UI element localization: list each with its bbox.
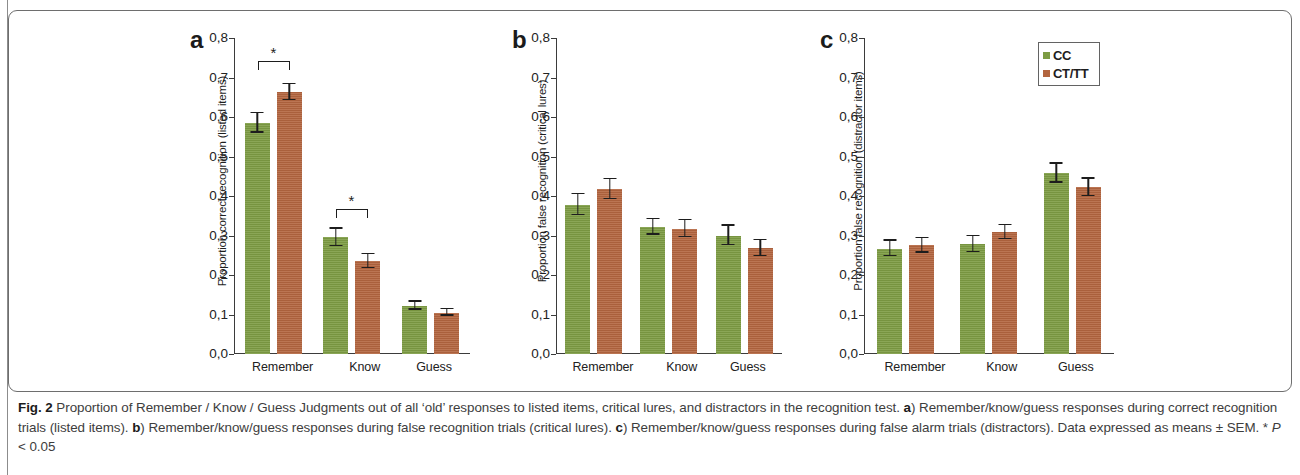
y-tick-mark: [229, 236, 234, 237]
y-tick-label: 0,2: [822, 268, 858, 282]
error-bar-cap: [1082, 195, 1095, 196]
y-tick-mark: [551, 354, 556, 355]
error-bar-cap: [722, 224, 735, 225]
x-category-label: Know: [349, 360, 380, 374]
bar-group: [640, 38, 697, 354]
x-category-label: Guess: [1058, 360, 1094, 374]
error-bar-cap: [722, 244, 735, 245]
bar-group: [565, 38, 622, 354]
y-tick-mark: [859, 236, 864, 237]
y-tick-mark: [551, 275, 556, 276]
y-tick-mark: [859, 275, 864, 276]
error-bar-cap: [329, 245, 342, 246]
bar-cc: [716, 38, 741, 354]
y-tick-label: 0,7: [514, 71, 550, 85]
y-axis-tick-labels-a: 0,00,10,20,30,40,50,60,70,8: [192, 38, 228, 354]
y-tick-label: 0,3: [822, 229, 858, 243]
x-category-label: Remember: [884, 360, 945, 374]
error-bar-cap: [754, 255, 767, 256]
bar-rect: [434, 313, 459, 354]
y-tick-label: 0,5: [192, 150, 228, 164]
y-tick-mark: [551, 236, 556, 237]
bar-rect: [672, 229, 697, 354]
legend-swatch-ct-tt-icon: [1043, 70, 1050, 77]
caption-text-c: ) Remember/know/guess responses during f…: [623, 420, 1272, 435]
x-category-label: Know: [986, 360, 1017, 374]
bar-group: [877, 38, 934, 354]
y-tick-mark: [551, 157, 556, 158]
y-tick-mark: [859, 157, 864, 158]
y-tick-mark: [551, 78, 556, 79]
error-bar-cap: [440, 308, 453, 309]
error-bar-cap: [1082, 177, 1095, 178]
y-tick-mark: [229, 315, 234, 316]
y-tick-label: 0,4: [514, 189, 550, 203]
bar-cc: [877, 38, 902, 354]
error-bar: [684, 220, 685, 237]
bar-rect: [1076, 187, 1101, 354]
y-tick-mark: [859, 38, 864, 39]
y-axis-tick-labels-b: 0,00,10,20,30,40,50,60,70,8: [514, 38, 550, 354]
error-bar-cap: [966, 235, 979, 236]
legend-item-ct-tt: CT/TT: [1043, 64, 1099, 82]
x-axis-category-labels-b: RememberKnowGuess: [556, 360, 782, 374]
y-axis-tick-labels-c: 0,00,10,20,30,40,50,60,70,8: [822, 38, 858, 354]
error-bar-cap: [998, 224, 1011, 225]
bar-groups-b: [556, 38, 782, 354]
error-bar-cap: [646, 218, 659, 219]
bar-rect: [877, 249, 902, 354]
y-tick-label: 0,8: [822, 31, 858, 45]
y-tick-mark: [859, 354, 864, 355]
bar-rect: [992, 232, 1017, 354]
error-bar-cap: [1050, 181, 1063, 182]
y-tick-label: 0,8: [514, 31, 550, 45]
error-bar-cap: [754, 239, 767, 240]
error-bar-cap: [966, 251, 979, 252]
significance-bracket: [336, 209, 368, 218]
bar-rect: [277, 92, 302, 354]
y-tick-label: 0,1: [192, 308, 228, 322]
error-bar-cap: [915, 251, 928, 252]
bar-rect: [909, 245, 934, 354]
bar-rect: [245, 123, 270, 354]
bar-cc: [245, 38, 270, 354]
bar-rect: [323, 237, 348, 354]
error-bar-cap: [408, 300, 421, 301]
x-category-label: Guess: [730, 360, 766, 374]
bar-ct-tt: [748, 38, 773, 354]
error-bar-cap: [678, 219, 691, 220]
bar-cc: [640, 38, 665, 354]
error-bar-cap: [408, 308, 421, 309]
bar-rect: [960, 244, 985, 354]
bar-cc: [960, 38, 985, 354]
bar-ct-tt: [277, 38, 302, 354]
bar-group: [716, 38, 773, 354]
figure-caption: Fig. 2 Proportion of Remember / Know / G…: [18, 398, 1290, 457]
y-tick-label: 0,6: [822, 110, 858, 124]
y-tick-mark: [229, 38, 234, 39]
error-bar-cap: [361, 253, 374, 254]
y-tick-mark: [859, 196, 864, 197]
y-tick-mark: [229, 157, 234, 158]
y-tick-label: 0,3: [514, 229, 550, 243]
error-bar-cap: [571, 193, 584, 194]
y-tick-mark: [229, 78, 234, 79]
y-tick-label: 0,1: [514, 308, 550, 322]
y-tick-label: 0,3: [192, 229, 228, 243]
bar-ct-tt: [597, 38, 622, 354]
error-bar-cap: [646, 233, 659, 234]
bar-group: [960, 38, 1017, 354]
y-tick-mark: [551, 117, 556, 118]
bar-ct-tt: [992, 38, 1017, 354]
y-tick-mark: [551, 38, 556, 39]
caption-p-symbol: P: [1272, 420, 1281, 435]
y-tick-mark: [551, 315, 556, 316]
legend-item-cc: CC: [1043, 46, 1099, 64]
caption-tag-c: c: [616, 420, 623, 435]
y-tick-label: 0,4: [822, 189, 858, 203]
bar-group: [245, 38, 302, 354]
y-tick-label: 0,7: [192, 71, 228, 85]
y-tick-label: 0,8: [192, 31, 228, 45]
bar-cc: [402, 38, 427, 354]
y-tick-label: 0,2: [192, 268, 228, 282]
